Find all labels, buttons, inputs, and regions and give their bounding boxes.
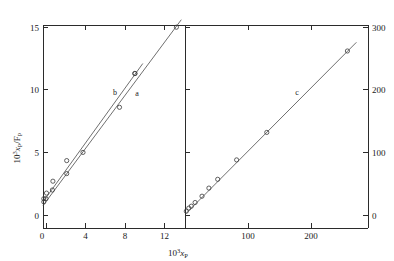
curve-label-c: c [295, 88, 299, 97]
curve-b-fit-line [43, 64, 143, 202]
left-x-ticklabel-12: 12 [160, 231, 169, 241]
middle-divider-ticks [185, 27, 190, 215]
curve-a-point [117, 105, 121, 109]
curve-b-point [51, 179, 55, 183]
right-x-ticks-top [248, 25, 311, 30]
curve-c-point [235, 158, 239, 162]
curve-c-point [207, 186, 211, 190]
right-x-ticklabel-100: 100 [241, 231, 255, 241]
svg-text:103xP: 103xP [168, 247, 188, 260]
y-axis-title: 103xP/FP [11, 132, 24, 163]
left-y-ticks [43, 27, 48, 215]
x-axis-title: 103xP [168, 247, 188, 260]
ylabel-subscript-2: P [16, 132, 23, 136]
left-y-ticklabel-10: 10 [30, 85, 40, 95]
right-y-ticklabel-0: 0 [372, 211, 377, 221]
right-x-ticks [248, 223, 311, 228]
right-y-ticklabel-100: 100 [372, 148, 386, 158]
scatter-plot-figure: 0 5 10 15 0 4 8 12 [0, 0, 394, 261]
curve-label-b: b [113, 88, 117, 97]
curve-c-point [216, 177, 220, 181]
left-x-ticks [46, 223, 165, 228]
left-x-ticklabel-4: 4 [83, 231, 88, 241]
figure-root: 0 5 10 15 0 4 8 12 [0, 0, 394, 261]
left-y-ticklabel-15: 15 [30, 23, 40, 33]
right-y-ticklabel-200: 200 [372, 85, 386, 95]
svg-text:103xP/FP: 103xP/FP [11, 132, 24, 163]
curve-c-markers [184, 49, 349, 213]
left-x-ticklabel-8: 8 [123, 231, 128, 241]
plot-frame [43, 25, 368, 228]
curve-b-point [44, 191, 48, 195]
left-panel-axes: 0 5 10 15 0 4 8 12 [30, 23, 169, 241]
left-x-ticks-top [86, 25, 165, 30]
left-x-ticklabel-0: 0 [40, 231, 45, 241]
right-y-ticklabel-300: 300 [372, 23, 386, 33]
left-y-ticklabel-0: 0 [35, 211, 40, 221]
left-panel-data: b a [42, 20, 182, 206]
xlabel-subscript: P [184, 252, 188, 259]
right-x-ticklabel-200: 200 [304, 231, 318, 241]
right-panel-data: c [184, 42, 356, 213]
ylabel-slash-f: /F [12, 136, 22, 144]
curve-label-a: a [135, 89, 139, 98]
right-panel-axes: 0 100 200 300 100 200 [241, 23, 386, 241]
curve-a-markers [42, 25, 179, 204]
left-y-ticklabel-5: 5 [35, 148, 40, 158]
curve-b-point [65, 159, 69, 163]
curve-a-fit-line [43, 20, 181, 206]
right-y-ticks [363, 27, 368, 215]
